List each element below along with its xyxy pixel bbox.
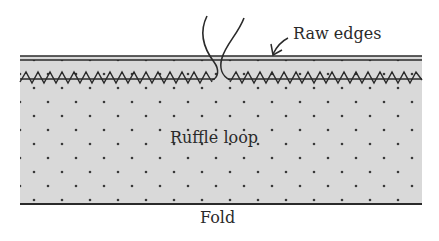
fold-label: Fold [200,208,235,227]
raw-edges-label: Raw edges [293,24,381,43]
arrow-head-icon [271,44,282,55]
ruffle-loop-label: Ruffle loop [170,128,258,147]
